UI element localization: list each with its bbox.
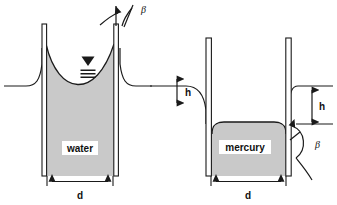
mercury-tube-left-wall — [206, 38, 211, 176]
mercury-tube-right-wall — [286, 38, 291, 176]
height-middle-label: h — [185, 87, 191, 98]
beta-angle-top: β — [100, 4, 146, 27]
angle-arc-icon — [292, 126, 303, 158]
beta-top-label: β — [140, 4, 146, 15]
mercury-diameter-label: d — [245, 190, 251, 201]
water-tube-assembly: water d β — [4, 4, 152, 201]
left-outer-surface-line — [4, 48, 42, 86]
middle-reference-surface-line — [150, 86, 206, 124]
height-right-label: h — [319, 101, 325, 112]
beta-bottom-label: β — [314, 139, 320, 150]
water-fill — [46, 44, 114, 176]
mercury-label: mercury — [225, 142, 265, 153]
water-diameter-dimension: d — [47, 176, 113, 201]
water-tube-right-wall — [114, 24, 119, 176]
height-dimension-middle: h — [177, 79, 191, 103]
mercury-diameter-dimension: d — [211, 176, 286, 201]
left-tube-right-outer-surface-line — [120, 48, 152, 86]
beta-angle-bottom: β — [290, 126, 320, 180]
water-tube-left-wall — [42, 24, 47, 176]
water-diameter-label: d — [77, 190, 83, 201]
capillary-diagram: water d β — [0, 0, 337, 205]
free-surface-icon — [81, 57, 96, 79]
height-dimension-right: h — [296, 90, 333, 124]
mercury-tube-assembly: mercury d h h β — [150, 38, 333, 201]
right-outer-surface-line — [289, 86, 333, 124]
water-label: water — [66, 143, 93, 154]
angle-arc-icon — [122, 8, 132, 26]
